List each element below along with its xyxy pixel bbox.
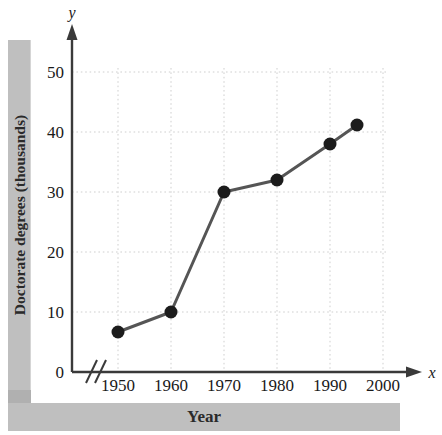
x-axis-variable-label: x [427, 364, 435, 381]
data-point [218, 186, 231, 199]
data-point [324, 138, 337, 151]
y-tick-label: 20 [47, 243, 64, 262]
data-point [351, 119, 364, 132]
y-axis-variable-label: y [66, 4, 76, 22]
y-tick-label: 30 [47, 183, 64, 202]
data-point [112, 326, 125, 339]
x-tick-label: 1950 [101, 376, 135, 395]
x-tick-label: 1960 [154, 376, 188, 395]
y-axis [67, 24, 78, 372]
y-tick-labels: 50 40 30 20 10 0 [47, 63, 64, 382]
y-tick-label: 40 [47, 123, 64, 142]
data-line [118, 125, 357, 332]
x-tick-label: 1970 [207, 376, 241, 395]
y-tick-label: 0 [56, 363, 65, 382]
vertical-gridlines [118, 68, 383, 372]
chart-figure: Doctorate degrees (thousands) Year [0, 0, 442, 435]
x-tick-label: 2000 [366, 376, 400, 395]
y-tick-label: 50 [47, 63, 64, 82]
x-tick-labels: 1950 1960 1970 1980 1990 2000 [101, 376, 400, 395]
x-tick-label: 1990 [313, 376, 347, 395]
x-tick-label: 1980 [260, 376, 294, 395]
y-tick-label: 10 [47, 303, 64, 322]
data-point [165, 306, 178, 319]
plot-area: 50 40 30 20 10 0 1950 1960 1970 1980 199… [0, 0, 442, 435]
data-point [271, 174, 284, 187]
data-points [112, 119, 364, 339]
